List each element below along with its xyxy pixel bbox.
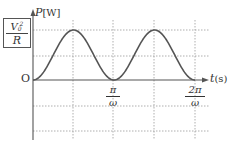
y-axis-unit: [W] (42, 7, 60, 18)
y-axis-label: P[W] (35, 6, 61, 19)
x-axis-arrow-icon (202, 78, 209, 83)
x-tick-pi-over-omega: π ω (106, 85, 120, 108)
origin-label: O (21, 72, 30, 85)
power-time-chart (0, 0, 230, 148)
x-axis-unit: (s) (214, 73, 227, 84)
clipped-header-fragment (0, 0, 40, 2)
x-tick-2pi-over-omega: 2π ω (185, 85, 205, 108)
amplitude-label: V02 R (3, 18, 31, 48)
x-axis-label: t(s) (210, 72, 227, 85)
axes (33, 14, 204, 140)
power-curve (33, 30, 195, 80)
amplitude-numerator: V02 (4, 21, 30, 32)
amplitude-denominator: R (4, 35, 30, 46)
